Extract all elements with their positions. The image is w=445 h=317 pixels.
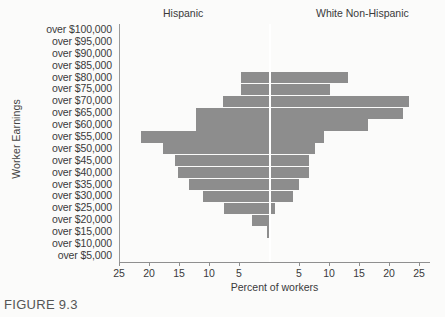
- x-axis-tick: [299, 262, 300, 266]
- plot-area: [119, 24, 429, 262]
- bar-row: [119, 190, 429, 202]
- bar-white-non-hispanic: [269, 84, 330, 95]
- x-axis-tick: [149, 262, 150, 266]
- x-axis-tick: [359, 262, 360, 266]
- category-label: over $95,000: [18, 36, 116, 48]
- x-axis-title: Percent of workers: [119, 281, 430, 293]
- bar-hispanic: [189, 179, 269, 190]
- bar-white-non-hispanic: [269, 119, 368, 130]
- x-axis-line: [119, 262, 430, 263]
- x-axis-tick: [209, 262, 210, 266]
- x-axis-tick: [329, 262, 330, 266]
- bar-row: [119, 250, 429, 262]
- x-axis-tick-label: 20: [136, 267, 162, 279]
- bar-white-non-hispanic: [269, 108, 403, 119]
- category-label-list: over $100,000over $95,000over $90,000ove…: [18, 24, 116, 262]
- x-axis-tick: [179, 262, 180, 266]
- x-axis-tick-label: 5: [286, 267, 312, 279]
- x-axis-tick: [389, 262, 390, 266]
- bar-row: [119, 131, 429, 143]
- x-axis-tick-label: 10: [196, 267, 222, 279]
- x-axis-tick-label: 25: [106, 267, 132, 279]
- bar-hispanic: [223, 96, 269, 107]
- x-axis-tick-label: 15: [166, 267, 192, 279]
- group-label-hispanic: Hispanic: [163, 7, 203, 19]
- bar-row: [119, 167, 429, 179]
- bar-row: [119, 238, 429, 250]
- bar-row: [119, 214, 429, 226]
- bar-row: [119, 24, 429, 36]
- category-label: over $45,000: [18, 155, 116, 167]
- bar-hispanic: [196, 108, 269, 119]
- center-zero-line: [269, 24, 271, 262]
- bar-white-non-hispanic: [269, 72, 348, 83]
- category-label: over $90,000: [18, 48, 116, 60]
- bar-white-non-hispanic: [269, 155, 309, 166]
- bar-hispanic: [224, 203, 269, 214]
- category-label: over $5,000: [18, 250, 116, 262]
- bar-row: [119, 179, 429, 191]
- bar-rows: [119, 24, 429, 262]
- bar-hispanic: [241, 84, 269, 95]
- figure-caption: FIGURE 9.3: [4, 297, 78, 312]
- x-axis-tick: [119, 262, 120, 266]
- bar-hispanic: [178, 167, 269, 178]
- bar-row: [119, 36, 429, 48]
- bar-row: [119, 107, 429, 119]
- bar-hispanic: [175, 155, 269, 166]
- bar-white-non-hispanic: [269, 131, 324, 142]
- bar-row: [119, 202, 429, 214]
- x-axis-tick: [419, 262, 420, 266]
- bar-row: [119, 143, 429, 155]
- bar-row: [119, 83, 429, 95]
- x-axis-tick-label: 15: [346, 267, 372, 279]
- bar-hispanic: [241, 72, 269, 83]
- bar-hispanic: [196, 119, 269, 130]
- bar-hispanic: [141, 131, 269, 142]
- bar-row: [119, 226, 429, 238]
- bar-row: [119, 60, 429, 72]
- bar-white-non-hispanic: [269, 191, 293, 202]
- group-label-white-non-hispanic: White Non-Hispanic: [316, 7, 409, 19]
- bar-row: [119, 119, 429, 131]
- x-axis-tick-label: 25: [406, 267, 432, 279]
- category-label: over $50,000: [18, 143, 116, 155]
- bar-white-non-hispanic: [269, 167, 309, 178]
- category-label: over $40,000: [18, 167, 116, 179]
- x-axis-tick-label: 20: [376, 267, 402, 279]
- bar-hispanic: [203, 191, 269, 202]
- bar-white-non-hispanic: [269, 143, 315, 154]
- bar-row: [119, 48, 429, 60]
- bar-white-non-hispanic: [269, 179, 299, 190]
- category-label: over $85,000: [18, 60, 116, 72]
- figure-9-3: Worker Earnings Hispanic White Non-Hispa…: [0, 0, 445, 317]
- bar-row: [119, 155, 429, 167]
- bar-row: [119, 72, 429, 84]
- bar-hispanic: [252, 215, 269, 226]
- bar-hispanic: [163, 143, 269, 154]
- x-axis-tick-label: 10: [316, 267, 342, 279]
- bar-white-non-hispanic: [269, 96, 409, 107]
- bar-row: [119, 95, 429, 107]
- x-axis-tick: [239, 262, 240, 266]
- x-axis-tick-label: 5: [226, 267, 252, 279]
